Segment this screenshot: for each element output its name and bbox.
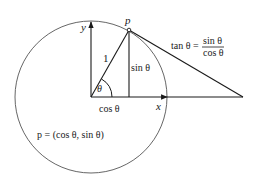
radius-label: 1: [103, 52, 109, 64]
angle-label: θ: [97, 83, 102, 94]
y-axis-label: y: [80, 21, 86, 33]
x-axis-label: x: [155, 100, 161, 112]
point-p-marker: [127, 28, 131, 32]
point-definition: p = (cos θ, sin θ): [37, 129, 104, 141]
tan-formula-numerator: sin θ: [203, 35, 222, 46]
angle-arc: [102, 79, 113, 97]
sin-label: sin θ: [131, 62, 150, 73]
tan-formula-denominator: cos θ: [203, 47, 224, 58]
point-p-label: p: [124, 14, 131, 26]
unit-circle-diagram: y x p 1 θ sin θ cos θ tan θ = sin θ cos …: [0, 0, 257, 181]
tan-formula-lhs: tan θ =: [171, 40, 199, 51]
cos-label: cos θ: [99, 103, 120, 114]
